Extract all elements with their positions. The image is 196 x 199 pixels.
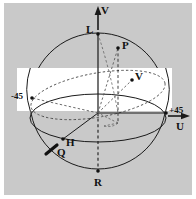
- point-P-marker: [116, 46, 120, 50]
- point-R-marker: [96, 169, 100, 173]
- p-projection-to-center-dashed: [98, 113, 118, 123]
- point-H-marker: [61, 137, 65, 141]
- label-u-axis: U: [176, 121, 184, 132]
- label-point-P: P: [122, 40, 129, 51]
- point-minus45-marker: [30, 96, 34, 100]
- poincare-sphere-figure: V U L R -45 +45 H P V Q: [0, 0, 196, 199]
- p-projection-horizontal-dashed: [104, 123, 118, 126]
- label-v-axis: V: [101, 5, 109, 16]
- label-point-H: H: [66, 137, 75, 148]
- sphere-drawing: [0, 0, 196, 199]
- white-band: [17, 68, 172, 111]
- point-L-marker: [96, 32, 100, 36]
- point-plus45-marker: [164, 111, 168, 115]
- label-plus45: +45: [169, 106, 183, 115]
- label-minus45: -45: [11, 92, 23, 101]
- label-point-V: V: [135, 71, 143, 82]
- label-pole-top-L: L: [86, 24, 93, 35]
- label-pole-bottom-R: R: [94, 177, 102, 188]
- label-point-Q: Q: [57, 147, 66, 158]
- point-V-marker: [130, 78, 134, 82]
